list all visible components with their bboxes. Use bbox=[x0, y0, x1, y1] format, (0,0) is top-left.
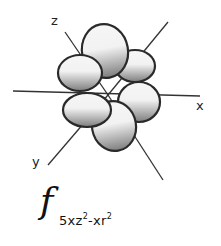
subscript-part-1: 5xz bbox=[59, 213, 83, 228]
subscript-part-2: -xr bbox=[88, 213, 107, 228]
y-axis-label: y bbox=[32, 155, 40, 168]
lobe-upper-left bbox=[58, 55, 102, 91]
orbital-formula: f 5xz2-xr2 bbox=[40, 183, 53, 219]
subscript-exponent-2: 2 bbox=[107, 212, 112, 221]
x-axis-label: x bbox=[196, 99, 204, 112]
orbital-symbol: f bbox=[40, 180, 53, 221]
lobe-lower-left bbox=[63, 93, 111, 127]
z-axis-label: z bbox=[51, 14, 58, 27]
orbital-subscript: 5xz2-xr2 bbox=[59, 212, 112, 228]
